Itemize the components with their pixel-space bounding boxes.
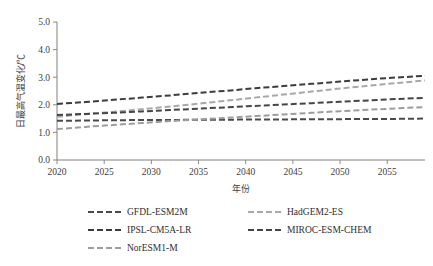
x-tick-label: 2050 [331,167,350,177]
x-tick-label: 2045 [283,167,302,177]
legend-label: MIROC-ESM-CHEM [287,225,372,235]
y-tick-label: 2.0 [38,100,50,110]
x-tick-label: 2030 [142,167,161,177]
y-tick-label: 4.0 [38,45,50,55]
x-tick-label: 2055 [378,167,397,177]
x-axis-tick-group: 20202025203020352040204520502055 [48,160,398,177]
y-tick-label: 1.0 [38,128,50,138]
y-axis-title: 日最高气温变化/℃ [15,54,26,129]
chart-legend: GFDL-ESM2MHadGEM2-ESIPSL-CM5A-LRMIROC-ES… [88,207,372,253]
legend-item[interactable]: NorESM1-M [88,243,178,253]
x-tick-label: 2025 [95,167,114,177]
x-tick-label: 2035 [189,167,208,177]
legend-item[interactable]: GFDL-ESM2M [88,207,188,217]
legend-label: NorESM1-M [127,243,178,253]
y-tick-label: 0.0 [38,155,50,165]
legend-label: GFDL-ESM2M [127,207,188,217]
x-tick-label: 2020 [48,167,67,177]
series-line [57,107,425,129]
y-axis-tick-group: 0.01.02.03.04.05.0 [38,17,57,165]
y-tick-label: 5.0 [38,17,50,27]
x-axis-title: 年份 [232,183,250,194]
legend-label: IPSL-CM5A-LR [127,225,192,235]
series-line [57,119,425,121]
x-tick-label: 2040 [236,167,255,177]
legend-label: HadGEM2-ES [287,207,343,217]
series-group [57,76,425,129]
chart-container: 0.01.02.03.04.05.0 202020252030203520402… [0,0,433,266]
temperature-change-line-chart: 0.01.02.03.04.05.0 202020252030203520402… [0,0,433,266]
series-line [57,81,425,117]
legend-item[interactable]: MIROC-ESM-CHEM [248,225,372,235]
y-tick-label: 3.0 [38,73,50,83]
legend-item[interactable]: HadGEM2-ES [248,207,343,217]
legend-item[interactable]: IPSL-CM5A-LR [88,225,192,235]
